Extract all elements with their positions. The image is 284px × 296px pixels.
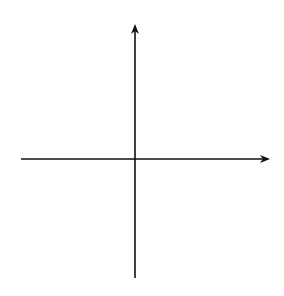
coordinate-graph [0,0,284,296]
